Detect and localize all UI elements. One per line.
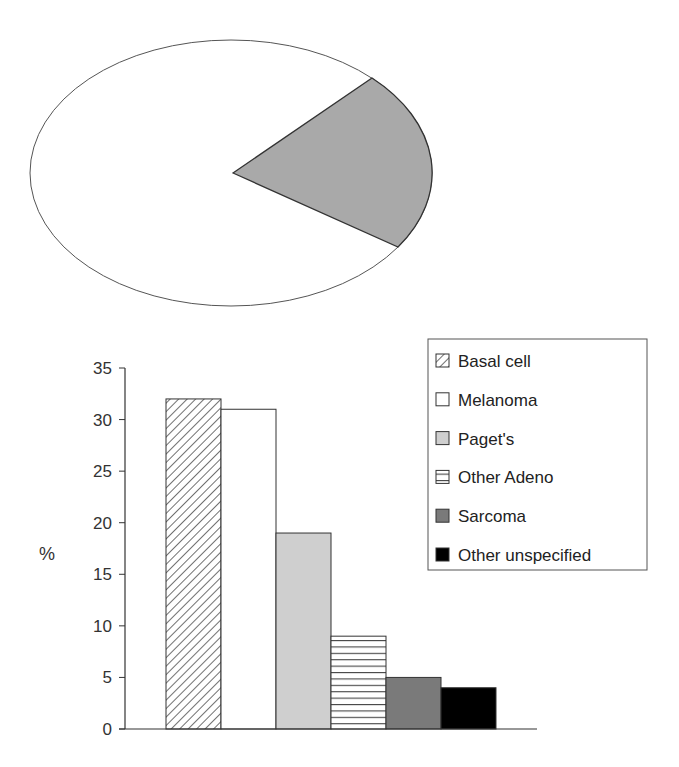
y-tick-label: 30 [93,411,112,430]
bar-other-adeno [331,636,386,729]
y-axis-ticks: 05101520253035 [93,359,125,739]
legend-swatch [436,509,449,522]
legend-box [428,339,647,570]
legend: Basal cellMelanomaPaget'sOther AdenoSarc… [428,339,647,570]
legend-label: Sarcoma [458,507,527,526]
y-tick-label: 5 [103,668,112,687]
bar-chart: 05101520253035 % Basal cellMelanomaPaget… [39,339,647,739]
y-tick-label: 0 [103,720,112,739]
y-tick-label: 35 [93,359,112,378]
chart-canvas: 05101520253035 % Basal cellMelanomaPaget… [0,0,679,767]
legend-label: Other unspecified [458,546,591,565]
y-axis-label: % [39,544,55,564]
bar-paget-s [276,533,331,729]
bar-other-unspecified [441,688,496,729]
y-tick-label: 15 [93,565,112,584]
legend-swatch [436,393,449,406]
legend-item-other-unspecified: Other unspecified [436,546,591,565]
legend-label: Other Adeno [458,468,553,487]
y-tick-label: 20 [93,514,112,533]
legend-swatch [436,470,449,483]
legend-swatch [436,354,449,367]
legend-label: Paget's [458,430,514,449]
legend-swatch [436,432,449,445]
legend-label: Melanoma [458,391,538,410]
pie-chart [30,40,432,306]
bar-melanoma [221,409,276,729]
legend-label: Basal cell [458,352,531,371]
y-tick-label: 25 [93,462,112,481]
bar-basal-cell [166,399,221,729]
y-tick-label: 10 [93,617,112,636]
bar-sarcoma [386,677,441,729]
legend-swatch [436,548,449,561]
